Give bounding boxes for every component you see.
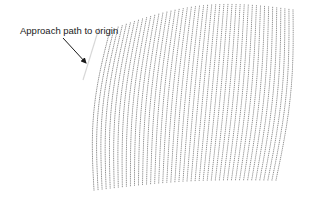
arrow-pointer	[63, 38, 86, 63]
annotation-arrow	[63, 38, 86, 63]
deformed-mesh-surface	[92, 4, 294, 191]
annotation-label: Approach path to origin	[20, 25, 118, 36]
